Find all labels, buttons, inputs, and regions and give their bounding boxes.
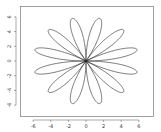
- y-tick-label: -2: [6, 73, 12, 78]
- x-tick-label: 2: [102, 123, 105, 129]
- y-tick-label: 4: [6, 30, 12, 33]
- y-tick-label: -4: [6, 88, 12, 93]
- y-tick-label: 0: [6, 59, 12, 62]
- x-axis: -6-4-20246: [31, 120, 141, 129]
- rose-curve-chart: -6-4-20246 -6-4-20246: [0, 0, 161, 132]
- x-tick-label: -4: [48, 123, 53, 129]
- y-tick-label: -6: [6, 103, 12, 108]
- x-tick-label: -6: [31, 123, 36, 129]
- y-axis: -6-4-20246: [6, 15, 16, 107]
- x-tick-label: -2: [66, 123, 71, 129]
- y-tick-label: 2: [6, 45, 12, 48]
- x-tick-label: 0: [84, 123, 87, 129]
- rose-curve-line: [35, 18, 137, 103]
- y-tick-label: 6: [6, 15, 12, 18]
- x-tick-label: 6: [137, 123, 140, 129]
- x-tick-label: 4: [120, 123, 123, 129]
